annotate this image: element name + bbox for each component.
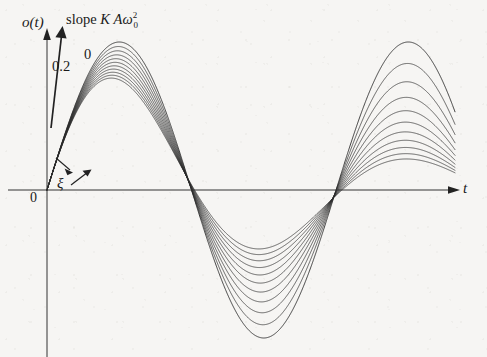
slope-omega: ω [122,11,132,27]
slope-gain-K: K [100,11,110,27]
x-axis-arrowhead [448,186,460,194]
slope-omega-exponent: 2 [133,10,138,20]
damping-symbol-label: ξ [57,175,63,192]
response-curve [47,62,455,283]
curve-label-most-damped: 0.2 [52,58,70,75]
response-curve [47,59,455,292]
slope-arrow-head [55,26,66,39]
response-curve [47,66,455,275]
y-axis-label: o(t) [22,14,44,31]
slope-word: slope [66,11,97,27]
slope-arrow [51,26,67,128]
response-curve [47,55,455,302]
slope-arrow-shaft [51,36,62,128]
damping-direction-arrow [71,170,92,186]
response-curve [47,47,455,325]
impulse-response-chart [0,0,487,357]
bundle-arrow-shaft [56,158,70,170]
slope-annotation: slope K Aω20 [66,10,138,30]
response-curve [47,75,455,254]
response-curve [47,69,455,267]
bundle-pointer-arrow [56,158,73,175]
x-axis-label: t [463,180,467,197]
curve-label-undamped: 0 [84,46,91,63]
y-axis-arrowhead [43,28,51,40]
response-curve [47,78,455,249]
origin-label: 0 [30,190,37,206]
slope-omega-subscript: 0 [133,20,138,30]
